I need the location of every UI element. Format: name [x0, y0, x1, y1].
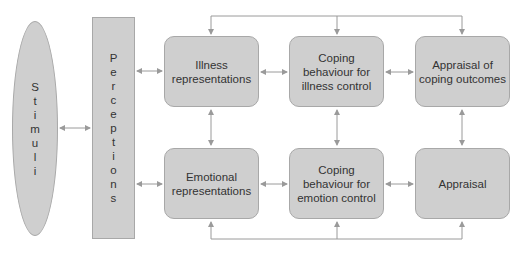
letter: o [110, 163, 116, 177]
letter: S [31, 80, 39, 94]
box-label: Appraisal [439, 177, 487, 191]
perceptions-node: P e r c e p t i o n s [92, 17, 135, 239]
letter: P [110, 51, 118, 65]
letter: e [110, 107, 116, 121]
perceptions-label: P e r c e p t i o n s [110, 51, 118, 205]
letter: t [112, 135, 115, 149]
coping-illness-control-box: Coping behaviour for illness control [289, 36, 384, 107]
letter: l [34, 150, 37, 164]
diagram-canvas: S t i m u l i P e r c e p t i o n s Illn… [0, 0, 523, 255]
box-label: Illness representations [168, 58, 255, 86]
coping-emotion-control-box: Coping behaviour for emotion control [289, 148, 384, 219]
letter: u [32, 136, 38, 150]
illness-representations-box: Illness representations [164, 36, 259, 107]
letter: s [111, 191, 117, 205]
letter: m [30, 122, 40, 136]
letter: n [110, 177, 116, 191]
letter: c [111, 93, 117, 107]
box-label: Coping behaviour for emotion control [293, 163, 380, 205]
letter: r [112, 79, 116, 93]
box-label: Appraisal of coping outcomes [419, 58, 506, 86]
emotional-representations-box: Emotional representations [164, 148, 259, 219]
box-label: Coping behaviour for illness control [293, 51, 380, 93]
stimuli-node: S t i m u l i [12, 21, 58, 236]
letter: i [34, 164, 37, 178]
stimuli-label: S t i m u l i [30, 80, 40, 178]
letter: i [34, 108, 37, 122]
letter: t [33, 94, 36, 108]
letter: i [112, 149, 115, 163]
appraisal-coping-outcomes-box: Appraisal of coping outcomes [415, 36, 510, 107]
letter: e [110, 65, 116, 79]
letter: p [110, 121, 116, 135]
box-label: Emotional representations [168, 170, 255, 198]
appraisal-box: Appraisal [415, 148, 510, 219]
